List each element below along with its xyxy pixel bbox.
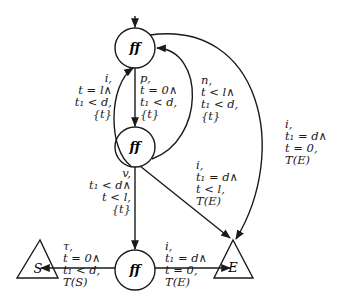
- node-middle-label: ff: [129, 139, 143, 154]
- node-bottom: ff: [115, 250, 155, 290]
- svg-text:{t}: {t}: [140, 107, 159, 121]
- label-n-mid-top: n, t < l∧ t₁ < d, {t}: [201, 73, 238, 123]
- edge-i-top-E: [150, 34, 262, 239]
- label-v-mid-bot: v, t₁ < d∧ t < l, {t}: [89, 166, 131, 216]
- node-top-label: ff: [129, 40, 143, 55]
- svg-text:{t}: {t}: [201, 109, 220, 123]
- label-p-top-mid: p, t = 0∧ t₁ < d, {t}: [140, 71, 177, 121]
- automaton-diagram: ff ff ff S E i, t = l∧ t₁ < d, {t} p, t …: [0, 0, 339, 297]
- terminal-S: S: [17, 240, 58, 278]
- label-i-top-E: i, t₁ = d∧ t = 0, T(E): [285, 117, 327, 167]
- svg-text:T(E): T(E): [196, 194, 221, 208]
- label-i-top-mid: i, t = l∧ t₁ < d, {t}: [75, 71, 112, 121]
- svg-text:{t}: {t}: [93, 107, 112, 121]
- svg-text:{t}: {t}: [112, 202, 131, 216]
- node-middle: ff: [115, 127, 155, 167]
- node-top: ff: [115, 28, 155, 68]
- label-i-bot-E: i, t₁ = d∧ t = 0, T(E): [165, 239, 207, 289]
- svg-text:T(E): T(E): [165, 275, 190, 289]
- svg-text:T(E): T(E): [285, 153, 310, 167]
- svg-text:T(S): T(S): [63, 275, 88, 289]
- label-tau-bot-S: τ, t = 0∧ t₁ < d, T(S): [63, 239, 100, 289]
- label-i-mid-E: i, t₁ = d∧ t < l, T(E): [196, 158, 238, 208]
- node-bottom-label: ff: [129, 262, 143, 277]
- terminal-E: E: [214, 240, 253, 278]
